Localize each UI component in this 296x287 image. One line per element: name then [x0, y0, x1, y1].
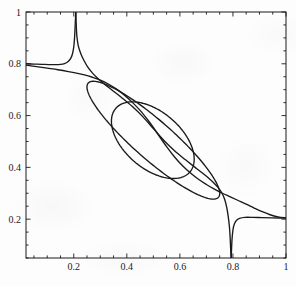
y-tick-label-0: 0.2 — [9, 214, 22, 225]
plot-canvas: 0.20.40.60.810.20.40.60.81 — [0, 0, 296, 287]
y-tick-label-2: 0.6 — [9, 110, 22, 121]
y-tick-label-3: 0.8 — [9, 58, 22, 69]
figure-background — [0, 0, 296, 287]
x-tick-label-0: 0.2 — [68, 261, 81, 272]
x-tick-label-4: 1 — [284, 261, 289, 272]
x-tick-label-2: 0.6 — [174, 261, 187, 272]
x-tick-label-3: 0.8 — [227, 261, 240, 272]
x-tick-label-1: 0.4 — [121, 261, 134, 272]
y-tick-label-1: 0.4 — [9, 162, 22, 173]
y-tick-label-4: 1 — [16, 7, 21, 18]
plot-figure: 0.20.40.60.810.20.40.60.81 — [0, 0, 296, 287]
